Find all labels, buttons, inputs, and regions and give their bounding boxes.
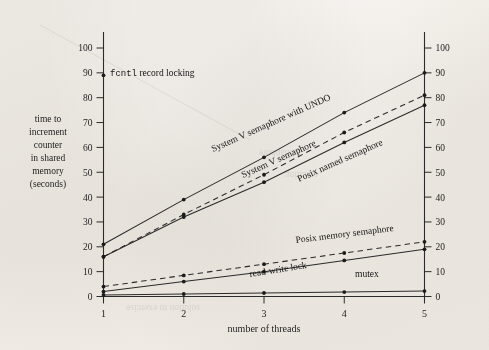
- right-tick-label-40: 40: [436, 193, 446, 203]
- data-point-marker: [182, 273, 186, 277]
- chart-svg: semaphore counting solution to exercise …: [0, 0, 489, 350]
- right-tick-label-30: 30: [436, 217, 446, 227]
- left-tick-label-10: 10: [83, 267, 93, 277]
- x-tick-label-5: 5: [422, 308, 427, 319]
- data-point-marker: [342, 141, 346, 145]
- data-point-marker: [423, 93, 427, 97]
- x-tick-label-4: 4: [342, 308, 347, 319]
- data-point-marker: [342, 251, 346, 255]
- data-point-marker: [102, 285, 106, 289]
- right-tick-label-20: 20: [436, 242, 446, 252]
- data-point-marker: [182, 280, 186, 284]
- left-tick-label-100: 100: [78, 43, 93, 53]
- right-tick-label-100: 100: [436, 43, 451, 53]
- data-point-marker: [102, 242, 106, 246]
- y-axis-title-line-0: time to: [35, 114, 62, 124]
- right-tick-label-70: 70: [436, 118, 446, 128]
- series-mutex: [102, 289, 427, 297]
- data-series-layer: [102, 71, 427, 297]
- left-tick-label-60: 60: [83, 143, 93, 153]
- right-tick-label-90: 90: [436, 68, 446, 78]
- data-point-marker: [342, 111, 346, 115]
- y-axis-title: time to increment counter in shared memo…: [29, 114, 67, 190]
- right-tick-label-60: 60: [436, 143, 446, 153]
- annotation-mutex: mutex: [355, 269, 379, 279]
- data-point-marker: [342, 290, 346, 294]
- series-annotations: fcntl record locking System V semaphore …: [110, 68, 394, 280]
- data-point-marker: [182, 292, 186, 296]
- right-tick-label-80: 80: [436, 93, 446, 103]
- left-tick-label-80: 80: [83, 93, 93, 103]
- data-point-marker: [102, 290, 106, 294]
- series-system-v-semaphore-with-undo: [102, 71, 427, 246]
- data-point-marker: [262, 173, 266, 177]
- data-point-marker: [423, 71, 427, 75]
- x-tick-label-2: 2: [181, 308, 186, 319]
- data-point-marker: [102, 255, 106, 259]
- y-axis-title-line-3: in shared: [31, 153, 66, 163]
- left-tick-label-40: 40: [83, 193, 93, 203]
- left-tick-label-0: 0: [88, 292, 93, 302]
- left-tick-label-50: 50: [83, 168, 93, 178]
- y-axis-title-line-5: (seconds): [30, 179, 66, 190]
- y-axis-title-line-4: memory: [32, 166, 64, 176]
- left-tick-label-30: 30: [83, 217, 93, 227]
- data-point-marker: [423, 103, 427, 107]
- data-point-marker: [102, 73, 106, 77]
- svg-text:solution to exercise: solution to exercise: [126, 303, 200, 313]
- data-point-marker: [423, 289, 427, 293]
- right-axis-ticks: 0102030405060708090100: [425, 43, 451, 302]
- data-point-marker: [262, 180, 266, 184]
- right-tick-label-50: 50: [436, 168, 446, 178]
- data-point-marker: [342, 259, 346, 263]
- x-axis-title: number of threads: [228, 323, 301, 334]
- x-tick-label-1: 1: [101, 308, 106, 319]
- data-point-marker: [423, 240, 427, 244]
- y-axis-title-line-1: increment: [29, 127, 67, 137]
- series-posix-memory-semaphore: [102, 240, 427, 289]
- chart-figure: semaphore counting solution to exercise …: [0, 0, 489, 350]
- data-point-marker: [182, 215, 186, 219]
- right-tick-label-10: 10: [436, 267, 446, 277]
- data-point-marker: [182, 198, 186, 202]
- left-tick-label-70: 70: [83, 118, 93, 128]
- left-tick-label-20: 20: [83, 242, 93, 252]
- y-axis-title-line-2: counter: [34, 140, 63, 150]
- data-point-marker: [423, 247, 427, 251]
- data-point-marker: [102, 293, 106, 297]
- right-tick-label-0: 0: [436, 292, 441, 302]
- left-tick-label-90: 90: [83, 68, 93, 78]
- annotation-fcntl-record-locking: fcntl record locking: [110, 68, 195, 79]
- annotation-posix-memory: Posix memory semaphore: [295, 223, 394, 245]
- series-fcntl-record-locking: [102, 73, 106, 77]
- data-point-marker: [342, 131, 346, 135]
- fcntl-suffix-token: record locking: [137, 68, 195, 78]
- annotation-rwlock: read-write lock: [249, 260, 308, 279]
- x-tick-label-3: 3: [262, 308, 267, 319]
- data-point-marker: [262, 291, 266, 295]
- fcntl-mono-token: fcntl: [110, 69, 137, 79]
- left-axis-ticks: 0102030405060708090100: [78, 43, 103, 302]
